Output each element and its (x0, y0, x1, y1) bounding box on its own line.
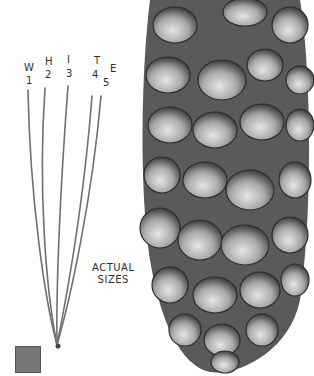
needle-number-4: 4 (92, 70, 98, 80)
caption-line-1: ACTUAL (92, 262, 135, 274)
pine-cone (140, 0, 314, 373)
needle-letter-w: W (24, 63, 34, 73)
caption-line-2: SIZES (92, 274, 135, 286)
needle-number-1: 1 (26, 76, 32, 86)
needle-number-3: 3 (66, 69, 72, 79)
needle-letter-h: H (45, 57, 53, 67)
needle-letter-e: E (110, 64, 116, 74)
needle-sheath (56, 344, 61, 349)
color-swatch (15, 346, 41, 373)
needle-number-2: 2 (45, 70, 51, 80)
needle-letter-i: I (67, 55, 70, 65)
needle-number-5: 5 (103, 78, 109, 88)
pine-needles (28, 86, 101, 345)
needle-letter-t: T (94, 56, 100, 66)
actual-sizes-caption: ACTUAL SIZES (92, 262, 135, 286)
